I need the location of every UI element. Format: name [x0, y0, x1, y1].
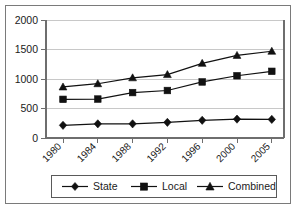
- square-marker-icon: [164, 87, 171, 94]
- x-tick-label-1988: 1988: [110, 140, 134, 164]
- chart-legend: State Local Combined: [52, 176, 277, 198]
- y-tick-label-1000: 1000: [15, 73, 39, 85]
- series-combined: [59, 47, 276, 90]
- x-tick-marks: [63, 138, 272, 143]
- y-tick-label-1500: 1500: [15, 43, 39, 55]
- x-tick-label-1996: 1996: [179, 140, 203, 164]
- gridlines: [46, 20, 284, 109]
- y-tick-label-0: 0: [32, 132, 38, 144]
- square-marker-icon: [140, 183, 147, 190]
- diamond-marker-icon: [233, 115, 240, 123]
- y-tick-marks: [41, 20, 46, 138]
- x-tick-label-1984: 1984: [75, 140, 99, 164]
- x-tick-label-2005: 2005: [249, 140, 273, 164]
- legend-label-combined: Combined: [228, 180, 276, 192]
- square-marker-icon: [95, 96, 102, 103]
- diamond-marker-icon: [199, 116, 206, 124]
- diamond-marker-icon: [59, 121, 66, 129]
- series-layer: [59, 47, 276, 129]
- chart-container: 2000 1500 1000 500 0 1980 1984 1988 1992…: [0, 0, 298, 213]
- x-tick-label-2000: 2000: [214, 140, 238, 164]
- x-tick-label-1992: 1992: [144, 140, 168, 164]
- square-marker-icon: [234, 72, 241, 79]
- x-axis-labels: 1980 1984 1988 1992 1996 2000 2005: [40, 140, 273, 164]
- triangle-marker-icon: [268, 47, 276, 54]
- y-axis-labels: 2000 1500 1000 500 0: [15, 14, 39, 144]
- diamond-marker-icon: [268, 115, 275, 123]
- y-tick-label-2000: 2000: [15, 14, 39, 26]
- diamond-marker-icon: [164, 118, 171, 126]
- square-marker-icon: [129, 89, 136, 96]
- diamond-marker-icon: [129, 120, 136, 128]
- y-tick-label-500: 500: [20, 102, 38, 114]
- x-tick-label-1980: 1980: [40, 140, 64, 164]
- legend-label-state: State: [93, 180, 118, 192]
- series-state: [59, 115, 275, 129]
- square-marker-icon: [199, 79, 206, 86]
- line-chart: 2000 1500 1000 500 0 1980 1984 1988 1992…: [0, 0, 298, 213]
- square-marker-icon: [60, 96, 67, 103]
- series-line-combined: [63, 51, 272, 87]
- diamond-marker-icon: [94, 120, 101, 128]
- legend-label-local: Local: [162, 180, 187, 192]
- square-marker-icon: [269, 68, 276, 75]
